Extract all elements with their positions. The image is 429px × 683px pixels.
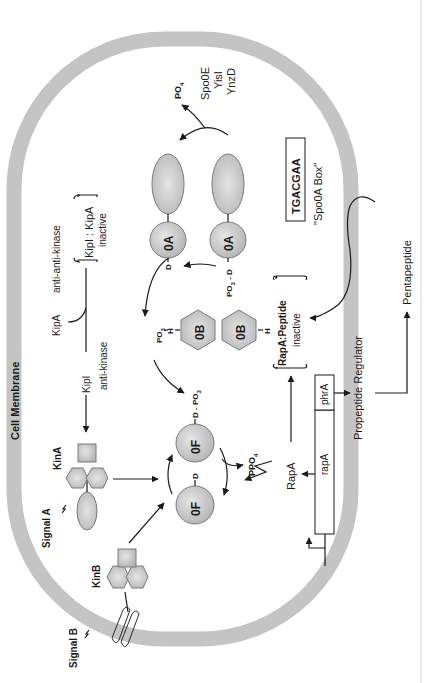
spo0f-label: 0F [189,502,203,516]
signal-b-lightning-icon [85,630,89,638]
kinb-hexagon2-icon [126,566,148,588]
spo0f-d-po3-label: D - PO3 [191,390,202,418]
spo0f-group: 0F D 0F D - PO3 PPO4 [168,390,272,524]
kipa-label: KipA [51,315,62,336]
spo0b-h-label: H [166,328,175,334]
rapa-peptide-complex-state: inactive [291,313,302,347]
phosphatase-spo0e: Spo0E [199,67,211,100]
rapa-gene-label: rapA [319,454,330,475]
kip-complex-bracket-curves [74,195,80,262]
kipa-role-label: anti-anti-kinase [51,225,62,293]
rapa-complex-bracket-top [273,276,306,280]
spo0a-po4-label: PO4 [173,82,185,99]
signal-a-lightning-icon [62,505,66,513]
kina-hexagon-icon [66,468,88,488]
spo0a-oval-domain-icon [152,154,184,214]
signal-a-label: Signal A [41,508,52,548]
rapa-peptide-complex-label: RapA:Peptide [277,300,288,366]
spo0a-group: 0A D 0A PO3 - D PO4 [150,82,246,297]
spo0b-group: 0B 0B H PO3 H [145,257,272,393]
kinb-square-icon [118,549,136,567]
spo0b2-h-label: H [263,328,272,334]
kina-label: KinA [52,447,63,470]
spo0b2-label: 0B [234,324,248,340]
kinb-to-0f-arrow [129,503,164,543]
promoter-arrow [309,534,325,566]
phosphatase-list: Spo0E YisI YnzD [199,67,237,100]
spo0a-dephosphorylation-arrow [180,128,228,140]
propeptide-to-pentapeptide-arrow [375,312,407,393]
spo0b-po3-label: PO3 [155,327,166,343]
signal-b-label: Signal B [68,628,79,668]
phosphatase-ynzd: YnzD [225,68,237,95]
spo0a-d-label: D [164,264,173,270]
spo0a-transfer-arrow [184,264,216,266]
kina-oval-domain-icon [77,492,97,530]
propeptide-regulator-label: Propeptide Regulator [352,336,364,440]
kipi-role-label: anti-kinase [98,341,109,390]
spo0a-p-label: 0A [222,235,236,251]
spo0f-po4-label: PPO4 [247,453,259,476]
spo0a-box-label: "Spo0A Box" [312,163,324,225]
sporulation-phosphorelay-diagram: Cell Membrane Signal B KinB Signal A Kin… [0,0,429,683]
kina-hexagon2-icon [86,468,108,488]
kina-group: Signal A KinA [41,444,158,548]
pentapeptide-label: Pentapeptide [401,240,413,305]
spo0a-box-group: TGACGAA "Spo0A Box" [286,138,324,225]
spo0f-d-label: D [191,473,200,479]
spo0a-p-oval-domain-icon [212,154,244,214]
spo0f-dephosphorylation-arrow [220,448,227,495]
cell-membrane-label: Cell Membrane [9,362,21,440]
kipi-label: KipI [81,376,92,393]
spo0b-to-spo0f-arrow [154,360,184,393]
kip-complex-state-label: inactive [97,213,108,247]
rapa-protein-label: RapA [285,462,297,490]
kipa-binding-curve [68,308,86,322]
spo0a-label: 0A [162,235,176,251]
phosphatase-yisi: YisI [212,71,224,89]
kina-square-icon [78,444,96,462]
spo0f-p-label: 0F [189,440,203,454]
kip-complex-label: KipI : KipA [83,206,95,258]
spo0a-po4-release-arrow [182,105,205,128]
phra-gene-label: phrA [319,384,330,405]
kip-regulation-group: KipI anti-kinase KipA anti-anti-kinase K… [51,195,109,432]
spo0a-box-sequence: TGACGAA [290,158,302,214]
spo0a-po3-d-label: PO3 - D [225,269,236,297]
kinb-stalk [125,592,128,612]
spo0b-label: 0B [193,324,207,340]
spo0f-phosphorylation-arrow [168,455,172,494]
kinb-label: KinB [91,565,102,588]
